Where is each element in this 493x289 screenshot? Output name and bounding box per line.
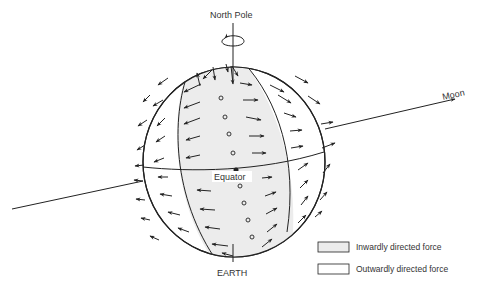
- force-arrow: [320, 192, 327, 200]
- force-arrow: [143, 95, 150, 102]
- force-arrow: [141, 218, 150, 220]
- force-arrow: [138, 120, 147, 126]
- legend-swatch-outward: [318, 264, 349, 274]
- legend-swatch-inward: [318, 242, 349, 252]
- tidal-force-diagram: North Pole Moon Equator EARTH Inwardly d…: [0, 0, 493, 289]
- force-arrow: [321, 122, 333, 124]
- moon-label: Moon: [441, 87, 465, 101]
- earth-sphere: [143, 62, 325, 258]
- force-arrow: [136, 199, 145, 200]
- legend-label-inward: Inwardly directed force: [356, 242, 442, 252]
- force-arrow: [134, 180, 143, 181]
- force-arrow: [308, 96, 320, 104]
- force-arrow: [150, 236, 159, 240]
- force-arrow: [315, 211, 322, 217]
- earth-moon-axis-right: [325, 99, 455, 129]
- legend-label-outward: Outwardly directed force: [356, 264, 448, 274]
- earth-moon-axis-left: [12, 181, 143, 209]
- equator-label: Equator: [214, 172, 246, 182]
- north-pole-label: North Pole: [210, 10, 253, 20]
- force-arrow: [158, 78, 168, 85]
- force-arrow: [295, 76, 308, 83]
- legend: Inwardly directed force Outwardly direct…: [318, 242, 448, 274]
- earth-label: EARTH: [217, 268, 247, 278]
